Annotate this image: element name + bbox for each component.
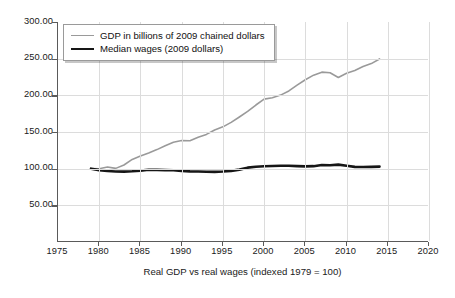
x-tick-label: 1990 [170,246,191,256]
x-tick-label: 2005 [294,246,315,256]
legend-line-icon-gdp [71,35,94,36]
gridline-vertical [388,22,389,241]
legend-item-wages: Median wages (2009 dollars) [71,42,265,55]
gridline-horizontal [58,95,428,96]
legend-label-wages: Median wages (2009 dollars) [100,43,223,54]
series-line [91,59,380,169]
legend-line-icon-wages [71,48,94,50]
x-tick-mark [263,242,264,246]
x-tick-mark [387,242,388,246]
x-tick-mark [346,242,347,246]
y-tick-label: 50.00 [29,199,53,209]
y-tick-label: 200.00 [24,89,53,99]
chart-container: 50.00100.00150.00200.00250.00300.00 1975… [0,0,455,298]
gridline-horizontal [58,205,428,206]
chart-legend: GDP in billions of 2009 chained dollars … [63,24,275,61]
x-axis: 1975198019851990199520002005201020152020 [57,243,428,259]
y-tick-label: 150.00 [24,126,53,136]
gridline-horizontal [58,169,428,170]
x-axis-title: Real GDP vs real wages (indexed 1979 = 1… [57,266,428,277]
gridline-vertical [347,22,348,241]
x-tick-label: 1975 [46,246,67,256]
x-tick-mark [304,242,305,246]
y-tick-label: 300.00 [24,16,53,26]
x-tick-label: 1980 [88,246,109,256]
x-tick-mark [98,242,99,246]
x-tick-label: 2010 [335,246,356,256]
gridline-vertical [305,22,306,241]
x-tick-label: 2020 [417,246,438,256]
x-tick-label: 2015 [376,246,397,256]
legend-item-gdp: GDP in billions of 2009 chained dollars [71,29,265,42]
x-tick-label: 2000 [253,246,274,256]
y-axis: 50.00100.00150.00200.00250.00300.00 [0,22,53,242]
y-tick-label: 250.00 [24,52,53,62]
x-tick-mark [222,242,223,246]
x-tick-mark [428,242,429,246]
x-tick-mark [139,242,140,246]
x-tick-mark [181,242,182,246]
gridline-vertical [429,22,430,241]
x-tick-label: 1985 [129,246,150,256]
gridline-horizontal [58,132,428,133]
legend-label-gdp: GDP in billions of 2009 chained dollars [100,30,265,41]
x-tick-label: 1995 [211,246,232,256]
y-tick-label: 100.00 [24,162,53,172]
